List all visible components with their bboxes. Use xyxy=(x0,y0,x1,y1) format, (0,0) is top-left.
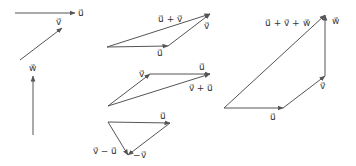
vector-label-v-u: v⃗ − u⃗ xyxy=(93,146,117,156)
vector-label-u+v: u⃗ + v⃗ xyxy=(158,14,183,24)
vector-label-v+u: v⃗ + u⃗ xyxy=(189,83,213,93)
vector-arrow-v xyxy=(283,76,325,108)
vector-arrow-u xyxy=(107,46,168,47)
vector-diagram: u⃗v⃗w⃗u⃗v⃗u⃗ + v⃗v⃗u⃗v⃗ + u⃗u⃗−v⃗v⃗ − u⃗… xyxy=(0,0,356,166)
vector-label-w: w⃗ xyxy=(332,16,339,26)
vector-arrow-u+v+w xyxy=(224,15,325,108)
figure-v-plus-u: v⃗u⃗v⃗ + u⃗ xyxy=(108,62,213,106)
vector-arrow-v xyxy=(20,28,62,60)
figure-u-plus-v: u⃗v⃗u⃗ + v⃗ xyxy=(107,14,210,58)
vector-label-v: v⃗ xyxy=(320,81,326,91)
vector-label-w: w⃗ xyxy=(29,63,36,73)
figure-v-minus-u: u⃗−v⃗v⃗ − u⃗ xyxy=(93,111,170,160)
vector-label-v: v⃗ xyxy=(56,17,62,27)
vector-label-u: u⃗ xyxy=(78,8,84,18)
vector-label-u: u⃗ xyxy=(157,48,163,58)
figure-u-plus-v-plus-w: u⃗v⃗w⃗u⃗ + v⃗ + w⃗ xyxy=(224,15,339,122)
vector-label-u: u⃗ xyxy=(199,62,205,72)
vector-arrow-u xyxy=(108,122,170,123)
vector-label-u+v+w: u⃗ + v⃗ + w⃗ xyxy=(265,18,310,28)
vector-label-u: u⃗ xyxy=(160,111,166,121)
vector-label-u: u⃗ xyxy=(270,112,276,122)
vector-label-v: v⃗ xyxy=(139,69,145,79)
figure-basis: u⃗v⃗w⃗ xyxy=(15,8,84,135)
vector-label-v: v⃗ xyxy=(204,21,210,31)
vector-label--v: −v⃗ xyxy=(133,150,147,160)
